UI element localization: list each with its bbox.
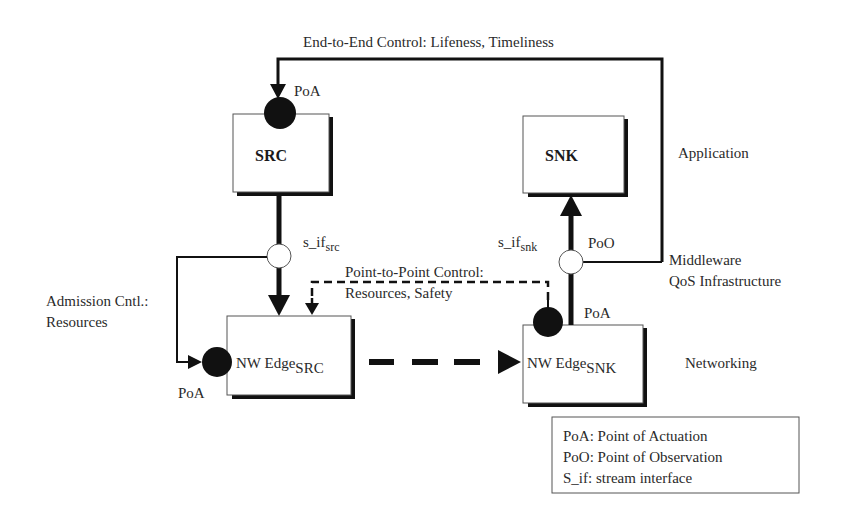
admission-label-2: Resources [46,314,108,330]
network-dashed-arrow [369,350,521,374]
admission-label-1: Admission Cntl.: [46,293,149,309]
legend-item: PoA: Point of Actuation [563,428,708,444]
p2p-label-2: Resources, Safety [345,285,453,301]
layer-middleware-label-1: Middleware [669,252,742,268]
snk-label: SNK [545,147,578,164]
layer-application-label: Application [678,145,749,161]
src-label: SRC [255,147,287,164]
nw-src-poa-point [202,347,232,377]
layer-middleware-label-2: QoS Infrastructure [669,273,781,289]
end-to-end-label: End-to-End Control: Lifeness, Timeliness [303,34,554,50]
arrow-down-icon [270,84,286,99]
arrow-right-icon [498,350,521,374]
layer-networking-label: Networking [685,355,757,371]
legend-item: S_if: stream interface [563,470,692,486]
snk-node: SNK [523,116,626,195]
src-poa-label: PoA [294,83,321,99]
nw-edge-src-node: NW EdgeSRC [227,316,353,397]
snk-stream-interface-point [559,250,583,274]
nw-src-poa-label: PoA [178,385,205,401]
nw-snk-poa-point [533,307,563,337]
snk-poo-label: PoO [588,235,615,251]
legend: PoA: Point of Actuation PoO: Point of Ob… [552,417,799,493]
arrow-down-icon [305,303,319,315]
src-poa-point [264,97,296,129]
snk-if-label: s_ifsnk [498,234,537,254]
qos-control-diagram: End-to-End Control: Lifeness, Timeliness… [0,0,852,516]
nw-edge-snk-node: NW EdgeSNK [523,325,645,405]
nw-snk-poa-label: PoA [584,305,611,321]
arrow-right-icon [188,355,202,369]
legend-item: PoO: Point of Observation [563,449,723,465]
arrow-down-icon [268,295,290,316]
arrow-up-icon [560,195,582,216]
src-stream-interface-point [267,244,291,268]
p2p-label-1: Point-to-Point Control: [345,264,484,280]
src-if-label: s_ifsrc [303,234,340,254]
